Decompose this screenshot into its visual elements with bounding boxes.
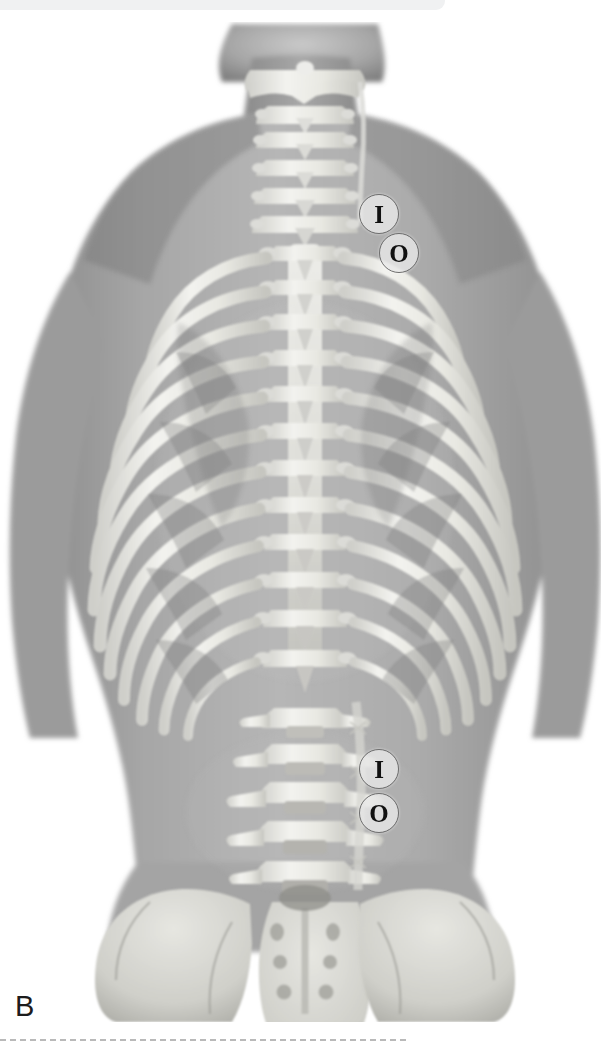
marker-label: I: [374, 757, 384, 782]
marker-label: O: [389, 241, 408, 266]
dashed-separator: [0, 1039, 406, 1041]
marker-label: I: [374, 202, 384, 227]
anatomy-illustration: [0, 22, 601, 1022]
top-gray-band: [0, 0, 445, 10]
panel-label-b: B: [15, 990, 35, 1023]
torso-skeleton-drawing: [0, 22, 601, 1022]
marker-thoracic-insertion[interactable]: I: [359, 194, 399, 234]
marker-label: O: [369, 801, 388, 826]
marker-lumbar-origin[interactable]: O: [359, 793, 399, 833]
marker-thoracic-origin[interactable]: O: [379, 233, 419, 273]
marker-lumbar-insertion[interactable]: I: [359, 749, 399, 789]
anatomy-figure-panel: I O I O B: [0, 0, 601, 1052]
